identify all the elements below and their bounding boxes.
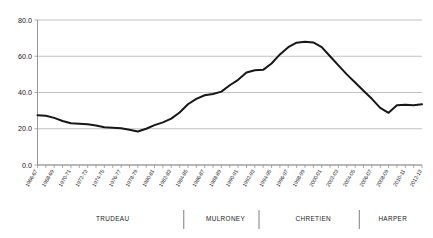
y-axis-tick-label: 40.0	[18, 88, 32, 97]
x-axis-tick-label: 2000-01	[308, 168, 323, 187]
y-axis-tick-label: 0.0	[22, 161, 32, 170]
x-axis-tick-label: 1980-81	[141, 168, 156, 187]
x-axis-tick-label: 1984-85	[174, 168, 189, 187]
y-axis-tick-label: 60.0	[18, 52, 32, 61]
x-axis-tick-label: 1982-83	[158, 168, 173, 187]
x-axis-tick-label: 1976-77	[107, 168, 122, 187]
era-label-mulroney: MULRONEY	[206, 215, 245, 222]
x-axis-tick-label: 1978-79	[124, 168, 139, 187]
x-axis-tick-label: 1992-93	[241, 168, 256, 187]
x-axis-tick-label: 1996-97	[275, 168, 290, 187]
x-axis-tick-label: 1972-73	[74, 168, 89, 187]
data-series-line	[38, 42, 423, 132]
x-axis-tick-label: 2008-09	[375, 168, 390, 187]
y-axis-tick-label: 20.0	[18, 124, 32, 133]
era-label-chretien: CHRETIEN	[296, 215, 331, 222]
chart-container: 0.020.040.060.080.01966-671968-691970-71…	[0, 0, 433, 238]
y-axis-tick-label: 80.0	[18, 16, 32, 25]
x-axis-tick-label: 2010-11	[392, 168, 406, 187]
x-axis-tick-label: 1966-67	[24, 168, 39, 187]
era-label-trudeau: TRUDEAU	[96, 215, 129, 222]
x-axis-tick-label: 1988-89	[208, 168, 223, 187]
x-axis-tick-label: 1970-71	[57, 168, 72, 187]
x-axis-tick-label: 1998-99	[291, 168, 306, 187]
x-axis-tick-label: 2012-13	[408, 168, 423, 187]
x-axis-tick-label: 1986-87	[191, 168, 206, 187]
x-axis-tick-label: 2002-03	[325, 168, 340, 187]
x-axis-tick-label: 1994-95	[258, 168, 273, 187]
x-axis-tick-label: 1968-69	[41, 168, 56, 187]
x-axis-tick-label: 2006-07	[358, 168, 373, 187]
x-axis-tick-label: 1974-75	[91, 168, 106, 187]
x-axis-tick-label: 2004-05	[341, 168, 356, 187]
x-axis-tick-label: 1990-91	[224, 168, 239, 187]
line-chart: 0.020.040.060.080.01966-671968-691970-71…	[0, 0, 433, 238]
era-label-harper: HARPER	[378, 215, 407, 222]
